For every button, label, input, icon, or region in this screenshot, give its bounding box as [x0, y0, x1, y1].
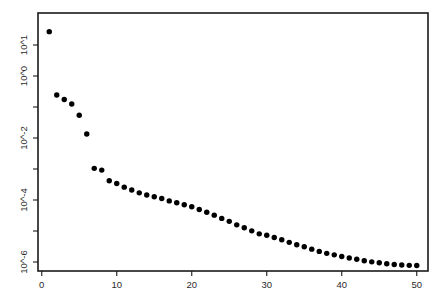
- x-tick-label: 0: [39, 279, 44, 290]
- data-point: [384, 261, 389, 266]
- data-point: [227, 219, 232, 224]
- data-point: [212, 212, 217, 217]
- data-point: [144, 192, 149, 197]
- data-point: [399, 262, 404, 267]
- data-point: [137, 190, 142, 195]
- data-point: [264, 233, 269, 238]
- data-point: [204, 209, 209, 214]
- data-point: [302, 244, 307, 249]
- data-point: [369, 259, 374, 264]
- data-point: [152, 194, 157, 199]
- data-point: [324, 251, 329, 256]
- data-point: [77, 113, 82, 118]
- data-point: [122, 184, 127, 189]
- data-point: [197, 207, 202, 212]
- data-points-layer: [47, 29, 420, 268]
- x-tick-label: 30: [261, 279, 272, 290]
- data-point: [309, 246, 314, 251]
- data-point: [84, 131, 89, 136]
- data-point: [257, 231, 262, 236]
- data-point: [332, 252, 337, 257]
- scatter-plot-figure: 10^110^010^-210^-410^-6 01020304050: [0, 0, 446, 307]
- data-point: [414, 263, 419, 268]
- data-point: [339, 254, 344, 259]
- data-point: [54, 92, 59, 97]
- plot-frame: [38, 13, 428, 271]
- data-point: [219, 216, 224, 221]
- y-tick-label: 10^-6: [18, 250, 29, 273]
- y-axis-ticks: 10^110^010^-210^-410^-6: [18, 35, 38, 274]
- x-tick-label: 10: [111, 279, 122, 290]
- data-point: [174, 200, 179, 205]
- data-point: [159, 196, 164, 201]
- data-point: [407, 263, 412, 268]
- data-point: [294, 242, 299, 247]
- data-point: [114, 181, 119, 186]
- data-point: [189, 204, 194, 209]
- data-point: [287, 240, 292, 245]
- x-axis-ticks: 01020304050: [39, 271, 422, 290]
- data-point: [129, 187, 134, 192]
- data-point: [249, 228, 254, 233]
- data-point: [182, 202, 187, 207]
- data-point: [272, 235, 277, 240]
- data-point: [62, 97, 67, 102]
- data-point: [167, 198, 172, 203]
- x-tick-label: 20: [186, 279, 197, 290]
- data-point: [99, 167, 104, 172]
- data-point: [69, 101, 74, 106]
- data-point: [47, 29, 52, 34]
- y-tick-label: 10^0: [18, 66, 29, 86]
- data-point: [107, 178, 112, 183]
- plot-canvas: 10^110^010^-210^-410^-6 01020304050: [0, 0, 446, 307]
- data-point: [354, 257, 359, 262]
- x-tick-label: 50: [411, 279, 422, 290]
- y-tick-label: 10^-2: [18, 126, 29, 149]
- data-point: [377, 260, 382, 265]
- data-point: [317, 249, 322, 254]
- y-tick-label: 10^1: [18, 35, 29, 55]
- data-point: [92, 166, 97, 171]
- data-point: [362, 258, 367, 263]
- data-point: [347, 255, 352, 260]
- data-point: [242, 225, 247, 230]
- y-tick-label: 10^-4: [18, 188, 29, 211]
- x-tick-label: 40: [336, 279, 347, 290]
- data-point: [392, 262, 397, 267]
- data-point: [234, 222, 239, 227]
- data-point: [279, 237, 284, 242]
